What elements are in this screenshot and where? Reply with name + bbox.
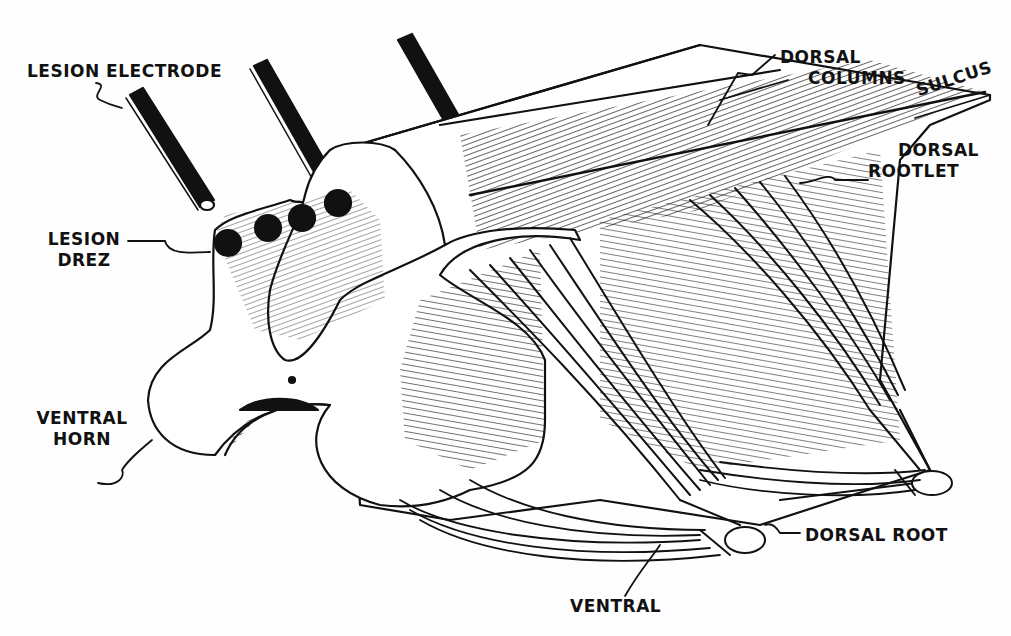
label-lesion-drez: LESION DREZ [44,229,124,271]
label-ventral: VENTRAL [570,596,661,617]
lesion-electrode-3 [398,34,460,124]
label-lesion-drez-line2: DREZ [44,250,124,271]
label-ventral-horn-line2: HORN [32,429,132,450]
label-lesion-drez-line1: LESION [44,229,124,250]
label-dorsal-root: DORSAL ROOT [805,525,948,546]
spinal-cord-diagram: LESION ELECTRODE LESION DREZ VENTRAL HOR… [0,0,1011,636]
label-dorsal-rootlet: DORSAL ROOTLET [898,140,979,182]
label-ventral-horn: VENTRAL HORN [32,408,132,450]
label-dorsal-columns-line1: DORSAL [780,47,906,68]
label-ventral-horn-line1: VENTRAL [32,408,132,429]
label-lesion-electrode: LESION ELECTRODE [27,61,222,82]
label-dorsal-rootlet-line1: DORSAL [898,140,979,161]
lesion-electrode-1 [126,88,214,210]
label-dorsal-columns-line2: COLUMNS [808,68,906,89]
label-dorsal-rootlet-line2: ROOTLET [868,161,979,182]
label-dorsal-columns: DORSAL COLUMNS [780,47,906,89]
